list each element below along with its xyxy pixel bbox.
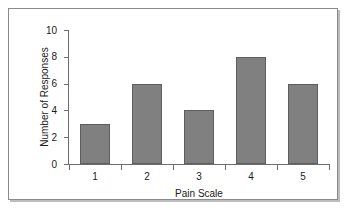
y-axis-tick-label: 10	[46, 26, 57, 36]
bar	[132, 84, 162, 164]
y-axis-title: Number of Responses	[40, 30, 50, 164]
x-axis-tick	[225, 165, 226, 170]
x-axis-category-label: 4	[248, 172, 254, 182]
plot-area: 0246810	[69, 30, 329, 164]
bar	[288, 84, 318, 164]
y-axis-tick-label: 6	[51, 79, 57, 89]
y-axis-tick-label: 2	[51, 133, 57, 143]
y-axis-tick-label: 0	[51, 160, 57, 170]
x-axis-tick-labels: 12345	[69, 172, 329, 186]
x-axis-tick	[329, 165, 330, 170]
x-axis-tick	[173, 165, 174, 170]
x-axis-tick	[277, 165, 278, 170]
bar	[184, 110, 214, 164]
x-axis-category-label: 2	[144, 172, 150, 182]
x-axis-tick	[121, 165, 122, 170]
x-axis-category-label: 1	[92, 172, 98, 182]
bar	[80, 124, 110, 164]
chart-frame: Number of Responses 0246810 12345 Pain S…	[8, 8, 338, 200]
y-axis-tick: 4	[64, 110, 69, 111]
y-axis-tick: 2	[64, 137, 69, 138]
x-axis-tick	[69, 165, 70, 170]
y-axis-tick-label: 8	[51, 52, 57, 62]
x-axis-category-label: 3	[196, 172, 202, 182]
y-axis-tick-label: 4	[51, 106, 57, 116]
bar	[236, 57, 266, 164]
y-axis-tick: 8	[64, 57, 69, 58]
x-axis-category-label: 5	[300, 172, 306, 182]
chart-figure: Number of Responses 0246810 12345 Pain S…	[0, 0, 354, 216]
y-axis-tick: 10	[64, 30, 69, 31]
y-axis-tick: 6	[64, 84, 69, 85]
x-axis-title: Pain Scale	[69, 189, 329, 199]
